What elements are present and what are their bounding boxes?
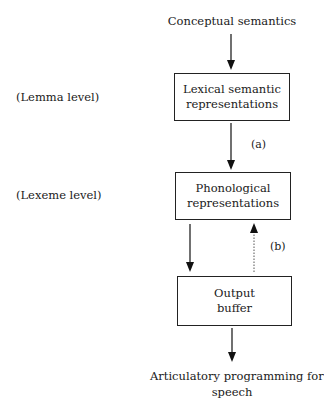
arrow-down-icon — [227, 34, 235, 70]
bottom-output-line: Articulatory programming for — [150, 368, 314, 384]
arrow-down-icon — [186, 224, 194, 272]
arrows-layer — [0, 0, 324, 414]
bottom-output-line: speech — [150, 384, 314, 400]
arrow-down-icon — [227, 123, 235, 170]
bottom-output-label: Articulatory programming for speech — [150, 368, 314, 400]
dotted-arrow-up-icon — [250, 223, 258, 272]
arrow-down-icon — [228, 328, 236, 362]
